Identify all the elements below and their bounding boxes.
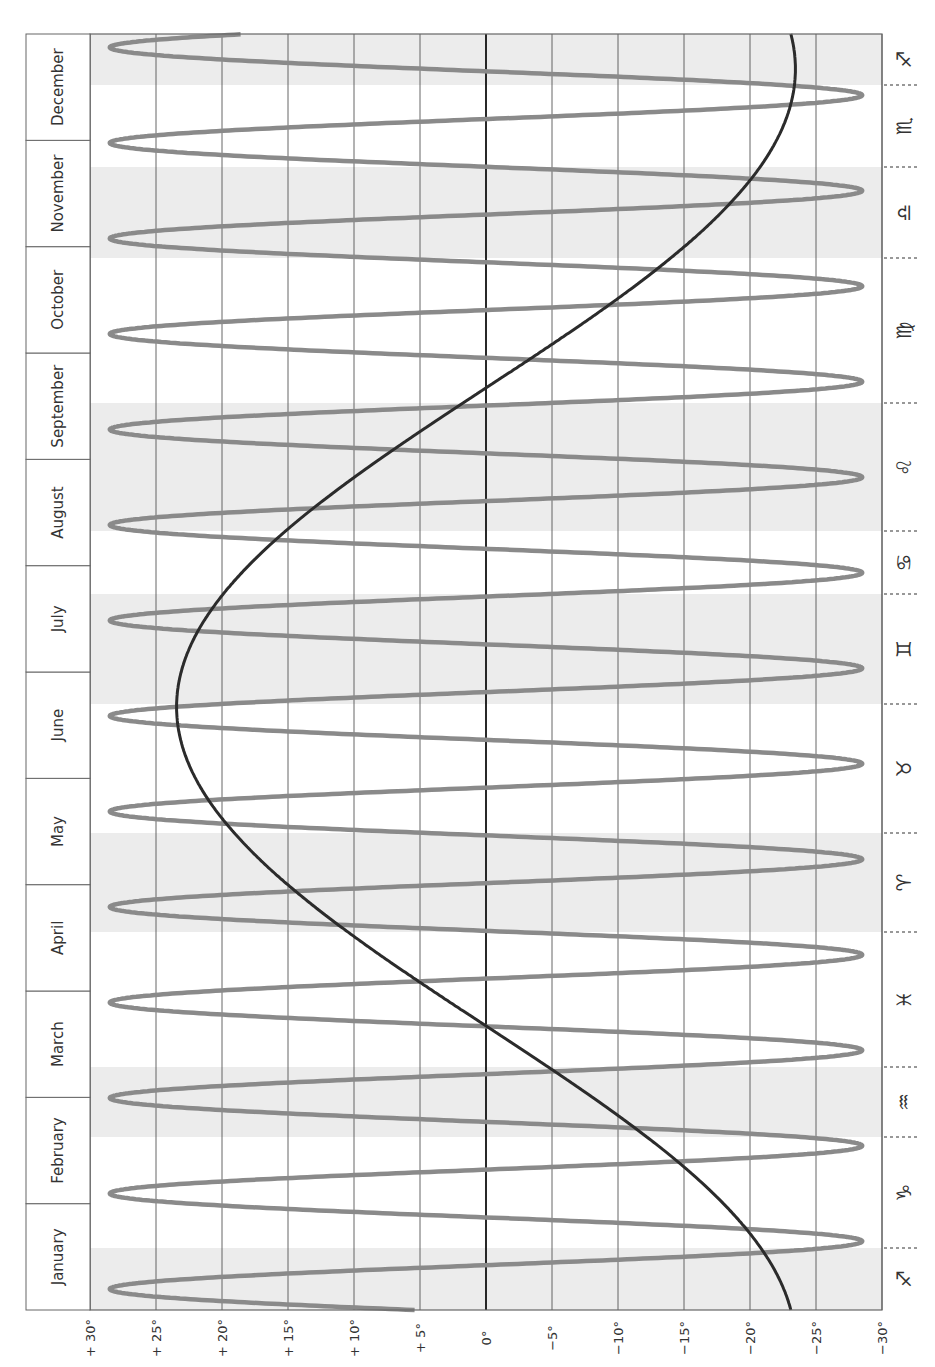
- zodiac-virgo-icon: ♍: [892, 322, 916, 340]
- month-label-august: August: [49, 486, 67, 539]
- month-label-june: June: [49, 709, 67, 743]
- zodiac-pisces-icon: ♓: [892, 991, 916, 1009]
- declination-chart: JanuaryFebruaryMarchAprilMayJuneJulyAugu…: [0, 0, 935, 1367]
- declination-tick-label: −15°: [677, 1321, 692, 1355]
- declination-tick-label: −5°: [545, 1325, 560, 1351]
- declination-tick-label: + 10°: [347, 1319, 362, 1357]
- month-label-may: May: [49, 816, 67, 847]
- zodiac-aries-icon: ♈: [892, 873, 916, 891]
- zodiac-scorpio-icon: ♏: [892, 117, 916, 135]
- declination-tick-label: + 15°: [281, 1319, 296, 1357]
- month-label-october: October: [49, 269, 67, 330]
- zodiac-sagittarius-icon: ♐: [892, 51, 916, 69]
- month-label-july: July: [49, 605, 67, 633]
- declination-tick-label: 0°: [479, 1331, 494, 1346]
- month-label-september: September: [49, 364, 67, 448]
- zodiac-cancer-icon: ♋: [892, 554, 916, 572]
- month-axis: JanuaryFebruaryMarchAprilMayJuneJulyAugu…: [26, 34, 90, 1310]
- declination-axis: + 30°+ 25°+ 20°+ 15°+ 10°+ 5°0°−5°−10°−1…: [83, 1319, 890, 1357]
- declination-tick-label: + 25°: [149, 1319, 164, 1357]
- declination-tick-label: + 5°: [413, 1323, 428, 1353]
- declination-tick-label: + 20°: [215, 1319, 230, 1357]
- zodiac-axis: ♐♑♒♓♈♉♊♋♌♍♎♏♐: [884, 51, 918, 1288]
- zodiac-aquarius-icon: ♒: [892, 1093, 916, 1111]
- month-label-december: December: [49, 47, 67, 126]
- zodiac-capricorn-icon: ♑: [892, 1184, 916, 1202]
- zodiac-leo-icon: ♌: [892, 458, 916, 476]
- month-label-february: February: [49, 1117, 67, 1184]
- zodiac-sagittarius-icon: ♐: [892, 1270, 916, 1288]
- declination-tick-label: −20°: [743, 1321, 758, 1355]
- month-label-november: November: [49, 154, 67, 233]
- declination-tick-label: −25°: [809, 1321, 824, 1355]
- declination-tick-label: + 30°: [83, 1319, 98, 1357]
- zodiac-taurus-icon: ♉: [892, 760, 916, 778]
- month-label-april: April: [49, 921, 67, 955]
- zodiac-gemini-icon: ♊: [892, 640, 916, 658]
- month-label-march: March: [49, 1021, 67, 1067]
- month-label-january: January: [49, 1228, 67, 1286]
- declination-tick-label: −10°: [611, 1321, 626, 1355]
- zodiac-libra-icon: ♎: [892, 204, 916, 222]
- declination-tick-label: −30°: [875, 1321, 890, 1355]
